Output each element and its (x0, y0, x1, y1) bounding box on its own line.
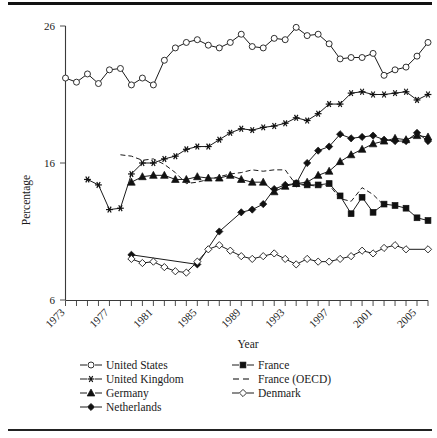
x-tick-group (66, 301, 429, 307)
series-united-states (63, 24, 432, 88)
data-point-marker (348, 211, 354, 217)
data-point-marker (424, 246, 431, 253)
legend-column-left: United StatesUnited KingdomGermanyNether… (78, 358, 184, 414)
legend-item-label: Denmark (256, 387, 301, 399)
x-tick-label: 1985 (175, 306, 199, 330)
data-point-marker (260, 201, 267, 208)
data-point-marker (358, 247, 365, 254)
data-point-marker (249, 255, 256, 262)
legend-item[interactable]: Denmark (230, 386, 331, 400)
x-axis-title: Year (237, 338, 258, 350)
data-point-marker (293, 24, 299, 30)
series-group (63, 24, 432, 276)
data-point-marker (117, 205, 124, 211)
legend-item-label: United Kingdom (104, 373, 184, 385)
data-point-marker (227, 247, 234, 254)
x-tick-label: 1989 (219, 306, 243, 330)
legend-item[interactable]: Germany (78, 386, 184, 400)
legend-item-label: Germany (104, 387, 149, 399)
data-point-marker (183, 39, 189, 45)
legend-item-label: United States (104, 359, 168, 371)
data-point-marker (369, 132, 376, 139)
data-point-marker (172, 45, 178, 51)
legend-item-label: France (OECD) (256, 373, 331, 385)
data-point-marker (249, 44, 255, 50)
data-point-marker (226, 171, 234, 178)
x-tick-label: 1981 (131, 306, 155, 330)
x-tick-label-group: 197319771981198519891993199720012005 (43, 306, 419, 330)
data-point-marker (358, 145, 366, 152)
data-point-marker (370, 50, 376, 56)
data-point-marker (271, 123, 278, 129)
x-tick-label: 1977 (87, 306, 111, 330)
data-point-marker (425, 39, 431, 45)
data-point-marker (293, 181, 299, 187)
data-point-marker (87, 389, 95, 396)
x-tick-label: 1993 (263, 306, 287, 330)
data-point-marker (249, 127, 256, 133)
data-point-marker (369, 250, 376, 257)
data-point-marker (238, 253, 245, 260)
solid-diamond-icon (78, 400, 104, 414)
data-point-marker (238, 31, 244, 37)
data-point-marker (106, 67, 112, 73)
open-circle-icon (78, 358, 104, 372)
data-point-marker (391, 242, 398, 249)
data-point-marker (337, 56, 343, 62)
data-point-marker (88, 362, 94, 368)
data-point-marker (84, 176, 91, 182)
solid-square-icon (230, 358, 256, 372)
data-point-marker (216, 242, 223, 249)
data-point-marker (239, 389, 246, 396)
data-point-marker (150, 82, 156, 88)
data-point-marker (238, 126, 245, 132)
data-point-marker (194, 144, 201, 150)
data-point-marker (161, 57, 167, 63)
data-point-marker (359, 55, 365, 61)
solid-triangle-icon (78, 386, 104, 400)
legend-item[interactable]: France (OECD) (230, 372, 331, 386)
x-tick-label: 2005 (394, 306, 418, 330)
data-point-marker (282, 37, 288, 43)
data-point-marker (392, 67, 398, 73)
data-point-marker (194, 173, 202, 180)
data-point-marker (370, 92, 377, 98)
x-tick-label: 2001 (350, 306, 374, 330)
data-point-marker (84, 71, 90, 77)
data-point-marker (425, 218, 431, 224)
data-point-marker (95, 81, 101, 87)
data-point-marker (260, 124, 267, 130)
x-tick-label: 1973 (43, 306, 67, 330)
series-line (87, 92, 428, 210)
open-diamond-icon (230, 386, 256, 400)
data-point-marker (128, 255, 135, 262)
data-point-marker (392, 90, 399, 96)
legend-item[interactable]: United States (78, 358, 184, 372)
data-point-marker (425, 92, 432, 98)
data-point-marker (348, 253, 355, 260)
data-point-marker (260, 45, 266, 51)
legend-item-label: France (256, 359, 289, 371)
data-point-marker (315, 258, 322, 265)
data-point-marker (359, 89, 366, 95)
data-point-marker (381, 92, 388, 98)
data-point-marker (260, 253, 267, 260)
data-point-marker (282, 255, 289, 262)
legend-item[interactable]: United Kingdom (78, 372, 184, 386)
data-point-marker (315, 31, 321, 37)
series-united-kingdom (84, 89, 431, 213)
data-point-marker (381, 72, 387, 78)
data-point-marker (326, 258, 333, 265)
legend-item-label: Netherlands (104, 401, 162, 413)
data-point-marker (304, 255, 311, 262)
data-point-marker (347, 151, 355, 158)
data-point-marker (380, 244, 387, 251)
y-tick-label: 6 (50, 294, 56, 306)
data-point-marker (336, 158, 344, 165)
data-point-marker (95, 182, 102, 188)
data-point-marker (337, 255, 344, 262)
y-tick-group (60, 26, 66, 300)
legend-item[interactable]: Netherlands (78, 400, 184, 414)
data-point-marker (150, 160, 157, 166)
legend-item[interactable]: France (230, 358, 331, 372)
